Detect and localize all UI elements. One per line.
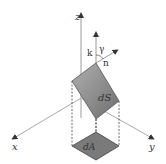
y-axis-label: y bbox=[148, 141, 155, 152]
area-element-dA bbox=[72, 132, 119, 160]
angle-arc bbox=[96, 55, 103, 59]
diagram-svg: z x y k γ n dS dA bbox=[0, 0, 166, 164]
x-axis-label: x bbox=[12, 141, 18, 152]
diagram-canvas: z x y k γ n dS dA bbox=[0, 0, 166, 164]
dA-label: dA bbox=[83, 142, 96, 152]
z-axis-label: z bbox=[74, 11, 81, 22]
surface-element-dS bbox=[72, 63, 119, 119]
dS-label: dS bbox=[98, 92, 111, 103]
n-vector-label: n bbox=[103, 58, 109, 68]
k-vector-label: k bbox=[87, 48, 93, 58]
gamma-angle-label: γ bbox=[99, 44, 104, 54]
x-axis bbox=[14, 98, 81, 138]
